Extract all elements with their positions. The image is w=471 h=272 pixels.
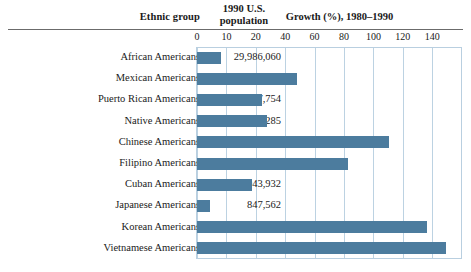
- table-header: Ethnic group 1990 U.S. population Growth…: [0, 0, 471, 30]
- x-tick-0: 0: [195, 31, 200, 42]
- header-divider: [8, 29, 463, 30]
- bar-growth: [197, 179, 252, 191]
- x-tick-140: 140: [425, 31, 440, 42]
- column-header-ethnic-group: Ethnic group: [95, 11, 200, 22]
- x-axis-tick-labels: 01020406080100120140: [0, 31, 471, 45]
- chart-row: Vietnamese Americans614,547: [0, 238, 471, 259]
- row-label-ethnic-group: African Americans: [20, 51, 200, 62]
- figure-ethnic-growth-chart: Ethnic group 1990 U.S. population Growth…: [0, 0, 471, 272]
- x-tick-10: 10: [221, 31, 231, 42]
- bar-growth: [197, 115, 267, 127]
- x-tick-60: 60: [310, 31, 320, 42]
- row-label-ethnic-group: Korean Americans: [20, 221, 200, 232]
- chart-row: Chinese Americans1,645,472: [0, 132, 471, 153]
- chart-row: Mexican Americans13,495,938: [0, 68, 471, 89]
- bar-growth: [197, 200, 210, 212]
- chart-row: Korean Americans798,849: [0, 217, 471, 238]
- chart-title: Growth (%), 1980–1990: [212, 11, 467, 22]
- row-label-ethnic-group: Native Americans: [20, 115, 200, 126]
- bar-growth: [197, 94, 262, 106]
- row-label-ethnic-group: Japanese Americans: [20, 199, 200, 210]
- chart-rows: African Americans29,986,060Mexican Ameri…: [0, 47, 471, 259]
- chart-row: Japanese Americans847,562: [0, 195, 471, 216]
- x-tick-20: 20: [251, 31, 261, 42]
- row-value-population: 847,562: [203, 199, 281, 210]
- chart-row: African Americans29,986,060: [0, 47, 471, 68]
- bar-growth: [197, 221, 427, 233]
- bar-growth: [197, 242, 446, 254]
- chart-row: Filipino Americans1,406,770: [0, 153, 471, 174]
- row-label-ethnic-group: Cuban Americans: [20, 178, 200, 189]
- x-tick-120: 120: [395, 31, 410, 42]
- row-label-ethnic-group: Vietnamese Americans: [20, 242, 200, 253]
- x-tick-40: 40: [280, 31, 290, 42]
- row-label-ethnic-group: Chinese Americans: [20, 136, 200, 147]
- row-label-ethnic-group: Puerto Rican Americans: [20, 93, 200, 104]
- x-tick-80: 80: [339, 31, 349, 42]
- row-label-ethnic-group: Mexican Americans: [20, 72, 200, 83]
- chart-row: Native Americans1,878,285: [0, 111, 471, 132]
- bar-growth: [197, 158, 348, 170]
- chart-row: Cuban Americans1,043,932: [0, 174, 471, 195]
- bar-growth: [197, 73, 297, 85]
- chart-row: Puerto Rican Americans2,727,754: [0, 89, 471, 110]
- x-tick-100: 100: [366, 31, 381, 42]
- bar-growth: [197, 52, 221, 64]
- row-label-ethnic-group: Filipino Americans: [20, 157, 200, 168]
- bar-growth: [197, 136, 389, 148]
